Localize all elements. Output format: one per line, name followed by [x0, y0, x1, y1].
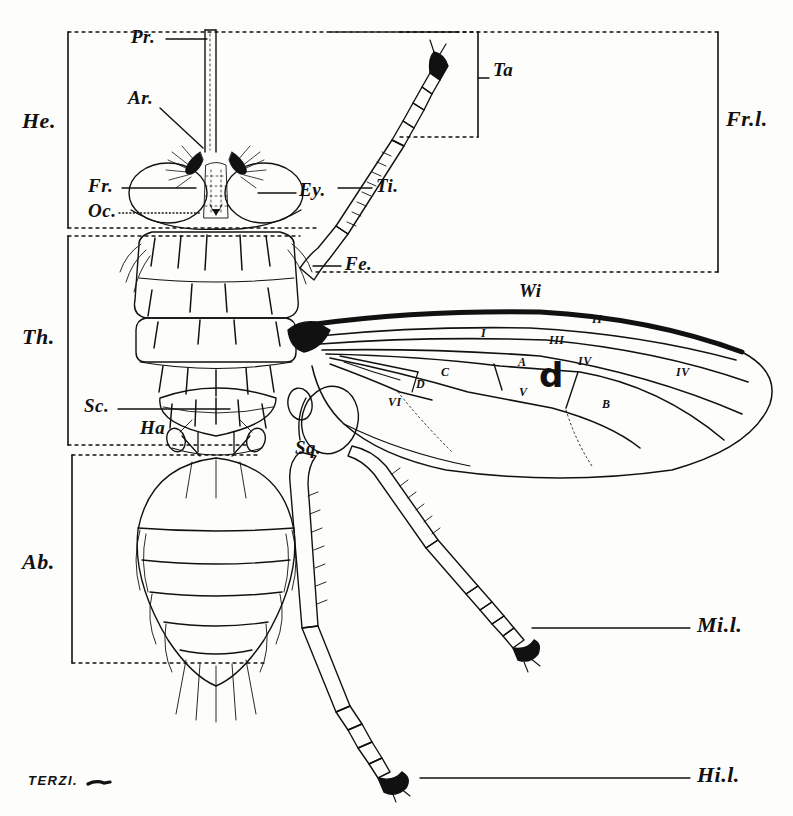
- wing-cell-d-upper: D: [416, 378, 425, 390]
- hind-leg: [290, 452, 410, 802]
- middle-leg: [348, 446, 540, 672]
- tergite-1: [138, 528, 294, 531]
- wing-cell-d-discal: d: [539, 358, 564, 392]
- crossvein-posterior: [566, 372, 578, 408]
- ocelli: [212, 209, 220, 216]
- bracket-abdomen: [72, 455, 265, 663]
- wing-vein-6: VI: [388, 396, 402, 408]
- label-wing: Wi: [519, 281, 541, 300]
- tergite-4: [164, 622, 268, 626]
- artist-signature: TERZI.: [28, 773, 78, 788]
- label-halter: Ha: [140, 418, 165, 437]
- crossvein-anterior: [494, 364, 502, 390]
- label-scutellum: Sc.: [84, 396, 109, 415]
- wing-cell-a: A: [518, 356, 527, 368]
- bracket-label-head: He.: [22, 110, 56, 132]
- wing: [288, 312, 772, 478]
- wing-vein-4: IV: [578, 355, 592, 367]
- bracket-label-thorax: Th.: [22, 326, 55, 348]
- antenna-right: [229, 146, 266, 188]
- tergite-5: [180, 650, 252, 654]
- label-middle-leg: Mi.l.: [697, 614, 742, 636]
- anatomy-plate: He. Th. Ab. Fr.l. Ta Pr. Ar. Fr. Oc. Ey.…: [0, 0, 793, 816]
- label-hind-leg: Hi.l.: [697, 764, 740, 786]
- antenna-left: [166, 146, 203, 188]
- abdomen-hairs: [136, 460, 296, 722]
- label-ocelli: Oc.: [88, 201, 116, 220]
- thorax-bristles: [148, 235, 280, 428]
- proboscis: [205, 30, 216, 152]
- hind-tibia: [302, 626, 350, 712]
- mesonotum: [134, 232, 298, 318]
- bracket-label-foreleg: Fr.l.: [726, 108, 768, 130]
- abdomen: [136, 458, 296, 722]
- bracket-label-abdomen: Ab.: [22, 551, 55, 573]
- bracket-foreleg: [316, 32, 718, 272]
- wing-vein-5: V: [519, 386, 528, 398]
- tergite-2: [142, 560, 290, 564]
- label-squama: Sq.: [295, 438, 321, 457]
- label-femur: Fe.: [345, 254, 372, 273]
- mid-femur: [348, 446, 438, 548]
- wing-vein-3: III: [549, 334, 565, 346]
- label-arista: Ar.: [128, 88, 153, 107]
- tergite-3: [150, 592, 282, 596]
- mid-tibia: [426, 540, 478, 594]
- label-eye: Ey.: [299, 180, 326, 199]
- signature-dash: [86, 777, 114, 789]
- fore-leg: [300, 40, 448, 280]
- wing-vein-2: II: [592, 313, 602, 325]
- label-proboscis: Pr.: [131, 27, 155, 46]
- leader-arista: [160, 108, 203, 148]
- bracket-head: [68, 32, 460, 228]
- label-frons: Fr.: [88, 176, 113, 195]
- bracket-tarsus: [400, 32, 478, 137]
- label-tibia: Ti.: [376, 176, 398, 195]
- wing-vein-4b: IV: [676, 366, 690, 378]
- scutum-band: [136, 318, 296, 362]
- wing-cell-c: C: [441, 366, 450, 378]
- bracket-label-tarsus: Ta: [493, 60, 513, 79]
- wing-vein-1: I: [481, 327, 486, 339]
- wing-cell-b: B: [602, 398, 611, 410]
